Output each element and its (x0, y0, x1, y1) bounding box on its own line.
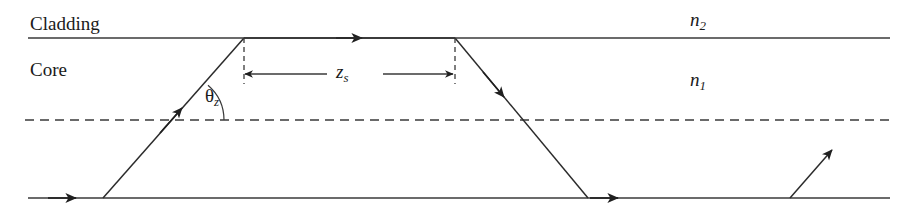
n2-base: n (690, 9, 700, 30)
n2-subscript: 2 (700, 18, 706, 33)
zs-subscript: s (343, 70, 348, 85)
n1-subscript: 1 (700, 78, 706, 93)
boundary-lines (25, 38, 890, 198)
cladding-label: Cladding (30, 14, 100, 33)
boundary-direction-arrows (48, 38, 618, 198)
fiber-ray-diagram: Cladding Core n2 n1 zs θz (0, 0, 907, 213)
reflected-ray-descending (455, 38, 588, 198)
exit-ray-upward (790, 150, 832, 198)
axial-distance-label: zs (336, 62, 348, 85)
cladding-refractive-index-label: n2 (690, 10, 706, 33)
theta-subscript: z (214, 94, 219, 109)
diagram-canvas (0, 0, 907, 213)
core-refractive-index-label: n1 (690, 70, 706, 93)
core-label: Core (30, 60, 67, 79)
ray-path (103, 38, 832, 198)
ray-angle-label: θz (205, 86, 219, 109)
n1-base: n (690, 69, 700, 90)
theta-base: θ (205, 85, 214, 106)
reflected-ray-arrowhead (483, 72, 504, 97)
dimension-extension-lines (244, 38, 455, 84)
